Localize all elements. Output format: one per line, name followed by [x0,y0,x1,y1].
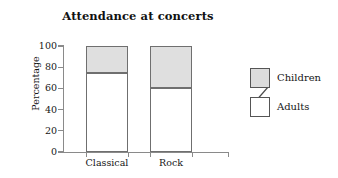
y-tick-mark-40 [58,109,63,110]
y-tick-mark-60 [58,88,63,89]
y-tick-label-60: 60 [17,83,57,93]
y-tick-label-80: 80 [17,62,57,72]
x-axis-line [63,152,229,153]
bar-classical [86,46,128,152]
bar-classical-segment-adults [86,73,128,153]
legend-swatch-children-icon [250,68,270,88]
x-tick-label-rock: Rock [136,157,206,168]
x-tick-label-classical: Classical [72,157,142,168]
bar-rock-segment-adults [150,88,192,152]
y-axis-line [63,45,64,153]
legend-swatch-adults-icon [250,97,270,117]
bar-rock-segment-children [150,46,192,88]
legend-label-children: Children [277,71,321,85]
y-tick-mark-0 [58,151,63,152]
y-tick-mark-80 [58,67,63,68]
x-tick-mark-5 [228,152,229,157]
y-tick-mark-100 [58,45,63,46]
chart-legend: Children Adults [250,68,338,124]
y-tick-label-100: 100 [17,41,57,51]
attendance-bar-chart: Attendance at concerts Percentage 0 20 4… [0,0,338,178]
bar-classical-segment-children [86,46,128,73]
legend-label-adults: Adults [277,100,309,114]
y-tick-label-0: 0 [17,147,57,157]
bar-rock [150,46,192,152]
y-tick-label-20: 20 [17,126,57,136]
y-tick-label-40: 40 [17,105,57,115]
y-tick-mark-20 [58,130,63,131]
